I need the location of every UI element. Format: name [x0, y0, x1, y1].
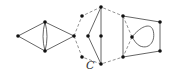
- vertex: [80, 14, 84, 18]
- vertex: [43, 20, 47, 24]
- diamond-component: [18, 22, 74, 51]
- vertex: [99, 34, 103, 38]
- vertex: [80, 55, 84, 59]
- vertex: [130, 35, 134, 39]
- vertex: [99, 62, 103, 66]
- vertex: [158, 49, 162, 53]
- quad-loop-component: [123, 16, 160, 57]
- edge: [123, 51, 160, 57]
- double-edge-left: [43, 22, 45, 51]
- edge: [18, 22, 45, 36]
- vertex: [43, 49, 47, 53]
- dashed-edge: [123, 16, 132, 37]
- vertex: [16, 34, 20, 38]
- edge: [45, 36, 74, 51]
- vertex: [72, 34, 76, 38]
- vertex: [121, 55, 125, 59]
- label-c: C: [86, 59, 95, 72]
- dashed-edge: [123, 37, 132, 57]
- edge: [123, 16, 160, 22]
- loop-edge: [132, 26, 154, 47]
- edge: [45, 22, 74, 36]
- double-edge-right: [45, 22, 47, 51]
- vertices: [16, 5, 162, 66]
- vertex: [121, 14, 125, 18]
- vertex: [86, 34, 90, 38]
- graph-diagram: C: [0, 0, 172, 73]
- edge: [18, 36, 45, 51]
- vertex: [158, 20, 162, 24]
- dashed-edge: [74, 36, 123, 64]
- dashed-edge: [74, 7, 123, 36]
- edge: [88, 7, 101, 36]
- vertex: [99, 5, 103, 9]
